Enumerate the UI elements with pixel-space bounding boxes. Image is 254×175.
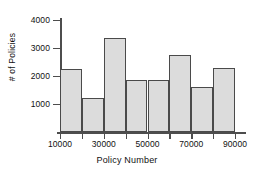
x-axis-title: Policy Number — [0, 155, 254, 165]
x-tick-40000 — [126, 132, 127, 139]
y-tick-4000 — [53, 20, 60, 21]
x-axis-line — [57, 132, 246, 134]
x-tick-label-70000: 70000 — [179, 139, 203, 149]
bar-bin-7 — [191, 87, 213, 132]
x-tick-labels: 10000 30000 50000 70000 90000 — [0, 139, 254, 153]
y-tick-label-1000: 1000 — [31, 99, 50, 109]
y-tick-label-2000: 2000 — [31, 71, 50, 81]
y-tick-label-3000: 3000 — [31, 43, 50, 53]
y-tick-3000 — [53, 48, 60, 49]
bar-bin-2 — [82, 98, 104, 132]
x-tick-10000 — [60, 132, 61, 139]
bar-bin-6 — [169, 55, 191, 132]
bar-bin-8 — [213, 68, 235, 132]
x-tick-label-50000: 50000 — [135, 139, 159, 149]
x-tick-30000 — [104, 132, 105, 139]
x-tick-label-90000: 90000 — [223, 139, 247, 149]
x-tick-label-10000: 10000 — [48, 139, 72, 149]
x-tick-20000 — [82, 132, 83, 139]
y-tick-2000 — [53, 76, 60, 77]
x-tick-60000 — [169, 132, 170, 139]
histogram-chart: 4000 3000 2000 1000 10000 30000 50000 70… — [0, 0, 254, 175]
x-tick-70000 — [191, 132, 192, 139]
x-tick-50000 — [148, 132, 149, 139]
bar-bin-3 — [104, 38, 126, 132]
x-tick-90000 — [235, 132, 236, 139]
bar-bin-1 — [60, 69, 82, 132]
plot-area — [60, 20, 235, 132]
bar-bin-5 — [148, 80, 170, 132]
y-tick-label-4000: 4000 — [31, 15, 50, 25]
x-tick-label-30000: 30000 — [92, 139, 116, 149]
y-axis-title: # of Policies — [7, 21, 17, 93]
bar-bin-4 — [126, 80, 148, 132]
y-tick-1000 — [53, 104, 60, 105]
x-tick-80000 — [213, 132, 214, 139]
